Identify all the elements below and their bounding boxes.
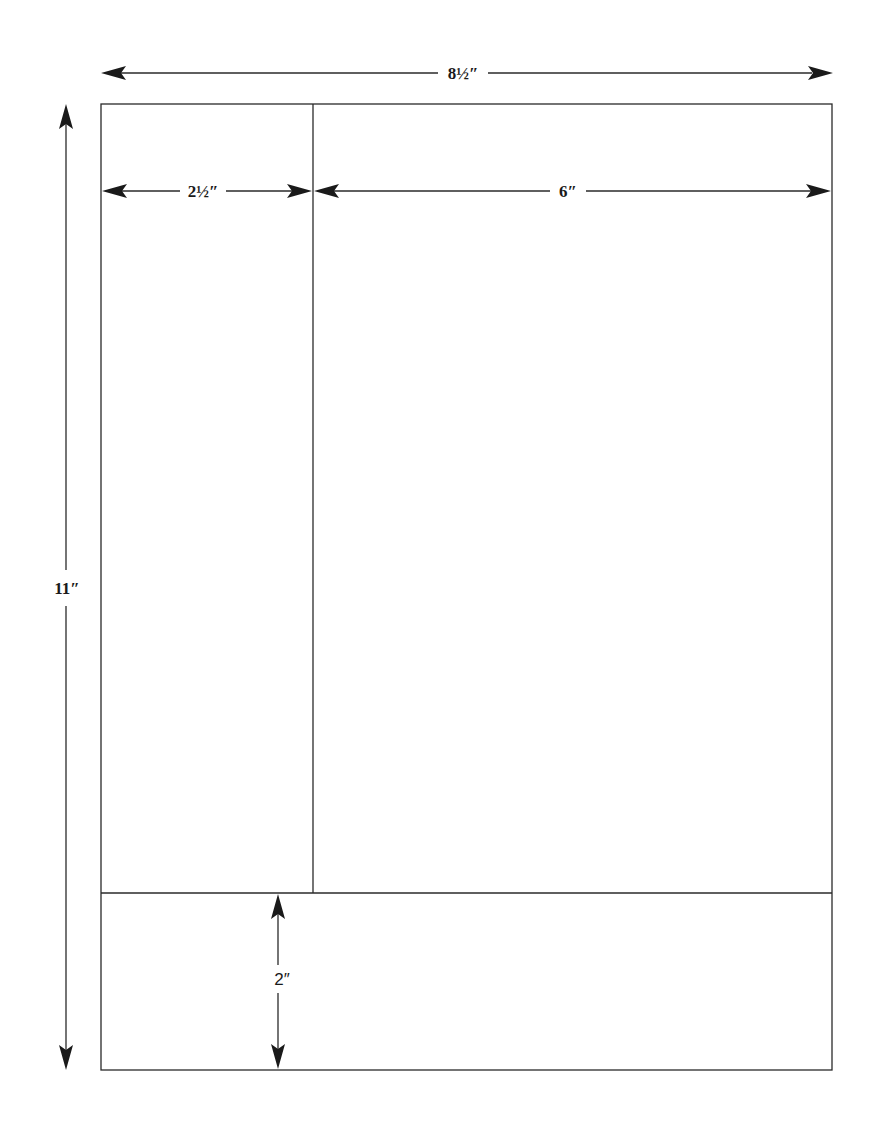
main-column-width-dimension: 6″	[314, 182, 831, 201]
main-column-width-label: 6″	[559, 182, 577, 201]
left-column-width-dimension: 2½″	[102, 182, 312, 201]
page-height-label: 11″	[54, 579, 79, 598]
page-outline	[101, 104, 832, 1070]
page-height-dimension: 11″	[54, 104, 79, 1070]
page-width-label: 8½″	[448, 64, 479, 83]
left-column-width-label: 2½″	[188, 182, 219, 201]
page-width-dimension: 8½″	[101, 64, 833, 83]
page-layout-diagram: 8½″ 11″ 2½″ 6″ 2″	[0, 0, 883, 1123]
footer-height-label: 2″	[274, 970, 289, 989]
footer-height-dimension: 2″	[271, 894, 290, 1069]
